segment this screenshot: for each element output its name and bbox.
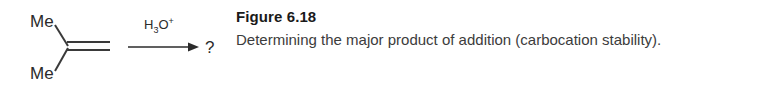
bond-top-methyl <box>55 25 68 46</box>
figure-caption-block: Figure 6.18 Determining the major produc… <box>236 6 736 52</box>
product-question-mark: ? <box>205 38 214 57</box>
figure-panel: Me Me H3O+ ? Figure 6.18 Determining <box>0 0 775 94</box>
substituent-label-top: Me <box>30 12 54 31</box>
substituent-label-bottom: Me <box>30 64 54 83</box>
figure-title: Figure 6.18 <box>236 6 736 28</box>
bond-bottom-methyl <box>55 48 68 71</box>
figure-caption-text: Determining the major product of additio… <box>236 28 731 52</box>
reagent-label: H3O+ <box>144 16 174 35</box>
reaction-scheme: Me Me H3O+ ? <box>0 0 232 94</box>
reagent-formula: H <box>144 17 153 32</box>
reaction-arrow-icon <box>128 43 199 52</box>
reagent-charge: + <box>169 16 174 26</box>
reagent-element: O <box>158 17 168 32</box>
